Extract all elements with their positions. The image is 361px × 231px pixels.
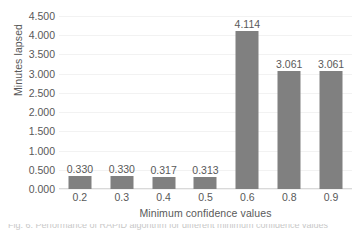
bar-value-label: 3.061 — [318, 58, 344, 70]
plot-area: 0.3300.3300.3170.3134.1143.0613.061 — [59, 16, 352, 189]
bar-value-label: 0.317 — [150, 164, 176, 176]
x-axis-tick-label: 0.8 — [282, 191, 297, 204]
y-axis-tick-label: 4.500 — [22, 10, 55, 22]
bar-group[interactable]: 0.330 — [59, 16, 101, 189]
y-axis-tick-label: 2.500 — [22, 87, 55, 99]
bar-group[interactable]: 0.313 — [185, 16, 227, 189]
bar-group[interactable]: 4.114 — [226, 16, 268, 189]
bar[interactable] — [320, 71, 343, 189]
bar[interactable] — [152, 177, 175, 189]
x-axis-tick-label: 0.9 — [324, 191, 339, 204]
gridline — [59, 189, 352, 190]
bar-value-label: 4.114 — [235, 18, 261, 30]
bar-group[interactable]: 0.330 — [101, 16, 143, 189]
bar[interactable] — [236, 31, 259, 189]
y-axis-tick-label: 1.500 — [22, 125, 55, 137]
bar-group[interactable]: 3.061 — [268, 16, 310, 189]
y-axis-tick-label: 3.000 — [22, 68, 55, 80]
x-axis-tick-label: 0.4 — [156, 191, 171, 204]
bar-chart-figure: Minutes lapsed 4.5004.0003.5003.0002.500… — [0, 0, 361, 231]
bar-value-label: 3.061 — [276, 58, 302, 70]
x-axis-tick-label: 0.5 — [198, 191, 213, 204]
y-axis-tick-label: 0.500 — [22, 164, 55, 176]
bar-group[interactable]: 3.061 — [310, 16, 352, 189]
bar[interactable] — [278, 71, 301, 189]
bars-layer: 0.3300.3300.3170.3134.1143.0613.061 — [59, 16, 352, 189]
y-axis-tick-label: 1.000 — [22, 145, 55, 157]
x-axis-tick-label: 0.6 — [240, 191, 255, 204]
bar-group[interactable]: 0.317 — [143, 16, 185, 189]
y-axis-tick-label: 0.000 — [22, 183, 55, 195]
caption-sliver-text: Fig. 6. Performance of RAPID algorithm f… — [8, 224, 328, 230]
caption-sliver: Fig. 6. Performance of RAPID algorithm f… — [0, 224, 361, 231]
bar-value-label: 0.330 — [109, 163, 135, 175]
bar[interactable] — [68, 176, 91, 189]
bar[interactable] — [110, 176, 133, 189]
x-axis-title: Minimum confidence values — [59, 207, 352, 219]
y-axis-tick-label: 3.500 — [22, 48, 55, 60]
bar-value-label: 0.313 — [192, 164, 218, 176]
x-axis-tick-label: 0.3 — [114, 191, 129, 204]
y-axis-tick-label: 4.000 — [22, 29, 55, 41]
y-axis-tick-label: 2.000 — [22, 106, 55, 118]
bar-value-label: 0.330 — [67, 163, 93, 175]
bar[interactable] — [194, 177, 217, 189]
y-axis-tick-labels: 4.5004.0003.5003.0002.5002.0001.5001.000… — [22, 10, 55, 194]
x-axis-tick-labels: 0.20.30.40.50.60.80.9 — [59, 191, 352, 205]
x-axis-tick-label: 0.2 — [73, 191, 88, 204]
